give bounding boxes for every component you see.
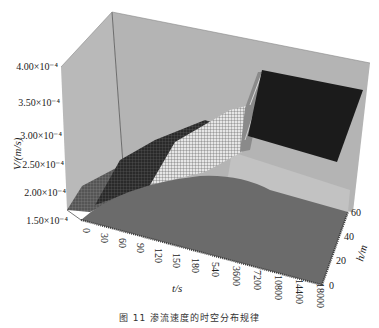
- z-tick: 1.50×10⁻⁴: [26, 215, 68, 226]
- z-tick: 3.50×10⁻⁴: [18, 97, 60, 108]
- z-tick: 3.00×10⁻⁴: [20, 130, 62, 141]
- surface-chart: 4.00×10⁻⁴ 3.50×10⁻⁴ 3.00×10⁻⁴ 2.50×10⁻⁴ …: [0, 0, 379, 328]
- t-tick: 180: [190, 258, 201, 273]
- floor-left-edge: [67, 210, 81, 220]
- t-tick: 120: [153, 248, 164, 263]
- t-tick: 150: [171, 253, 182, 268]
- t-tick: 0: [81, 228, 92, 233]
- t-tick: 90: [135, 243, 146, 253]
- t-tick: 30: [99, 233, 110, 243]
- t-tick: 540: [210, 262, 221, 277]
- h-axis-label: h/m: [353, 243, 369, 262]
- t-tick: 3600: [231, 266, 242, 286]
- t-tick: 14400: [294, 279, 305, 304]
- h-tick: 0: [329, 280, 334, 291]
- z-tick: 2.50×10⁻⁴: [22, 159, 64, 170]
- h-tick: 40: [344, 231, 354, 242]
- t-axis-label: t/s: [172, 282, 182, 294]
- t-tick: 18000: [315, 283, 326, 308]
- t-tick: 7200: [252, 270, 263, 290]
- z-axis-label: V/(m/s): [11, 137, 24, 170]
- z-axis: 4.00×10⁻⁴ 3.50×10⁻⁴ 3.00×10⁻⁴ 2.50×10⁻⁴ …: [11, 61, 68, 226]
- z-tick: 4.00×10⁻⁴: [16, 61, 58, 72]
- z-tick: 2.00×10⁻⁴: [24, 187, 66, 198]
- figure-caption: 图 11 渗流速度的时空分布规律: [0, 311, 379, 324]
- h-tick: 60: [351, 207, 361, 218]
- h-tick: 20: [336, 255, 346, 266]
- t-tick: 60: [117, 238, 128, 248]
- t-tick: 10800: [273, 275, 284, 300]
